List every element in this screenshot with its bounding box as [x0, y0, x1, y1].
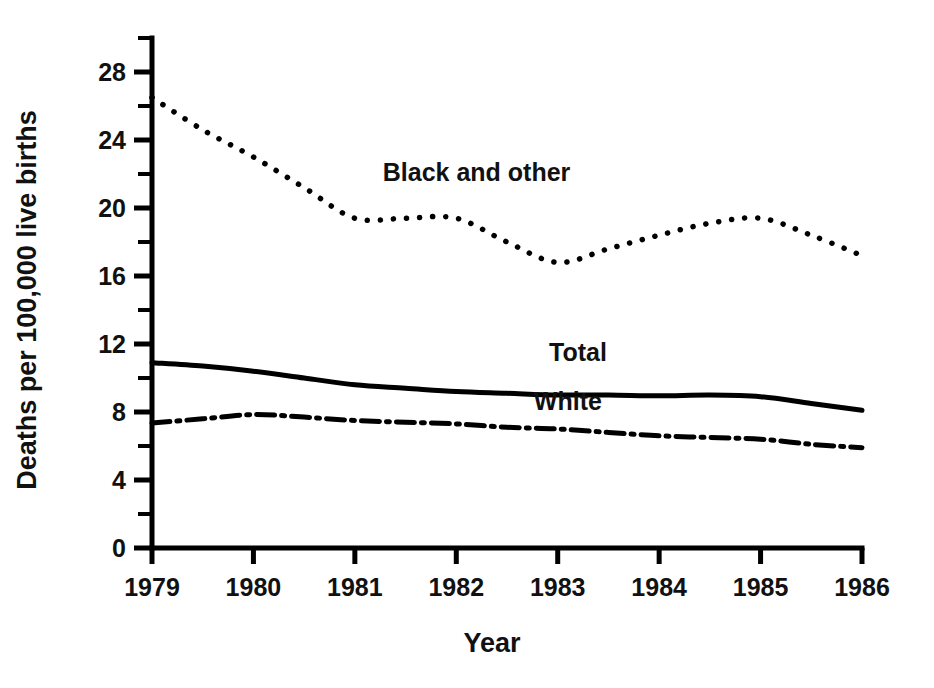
- y-tick-label: 4: [112, 466, 126, 494]
- x-axis-title: Year: [463, 628, 521, 658]
- y-axis-title: Deaths per 100,000 live births: [12, 110, 42, 490]
- y-tick-label: 12: [98, 330, 126, 358]
- axis-ticks: [134, 38, 862, 564]
- series-line-total: [152, 363, 862, 411]
- x-tick-label: 1983: [530, 573, 586, 601]
- x-tick-label: 1982: [428, 573, 484, 601]
- x-tick-label: 1986: [834, 573, 890, 601]
- series-annotations: Black and otherTotalWhite: [383, 158, 607, 416]
- x-axis-tick-labels: 19791980198119821983198419851986: [124, 573, 890, 601]
- y-tick-label: 28: [98, 58, 126, 86]
- chart-page: 0481216202428 19791980198119821983198419…: [0, 0, 934, 688]
- x-tick-label: 1979: [124, 573, 180, 601]
- y-tick-label: 20: [98, 194, 126, 222]
- y-tick-label: 0: [112, 534, 126, 562]
- y-tick-label: 16: [98, 262, 126, 290]
- y-axis-tick-labels: 0481216202428: [98, 58, 126, 562]
- x-tick-label: 1984: [631, 573, 687, 601]
- series-label-white: White: [534, 387, 602, 415]
- x-tick-label: 1980: [226, 573, 282, 601]
- x-tick-label: 1985: [733, 573, 789, 601]
- chart-axes: [152, 38, 862, 548]
- series-label-total: Total: [549, 338, 607, 366]
- y-tick-label: 8: [112, 398, 126, 426]
- series-label-black-and-other: Black and other: [383, 158, 571, 186]
- line-chart: 0481216202428 19791980198119821983198419…: [0, 0, 934, 688]
- y-tick-label: 24: [98, 126, 126, 154]
- x-tick-label: 1981: [327, 573, 383, 601]
- series-line-white: [152, 415, 862, 448]
- data-series: [152, 98, 862, 448]
